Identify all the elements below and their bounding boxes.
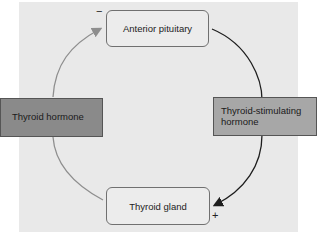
thyroid-gland-node: Thyroid gland [106,187,210,225]
stimulation-sign: + [212,209,218,221]
tsh-label: Thyroid-stimulating hormone [221,106,312,128]
thyroid-hormone-label: Thyroid hormone [12,112,84,123]
tsh-box: Thyroid-stimulating hormone [213,97,317,136]
anterior-pituitary-label: Anterior pituitary [123,23,192,34]
thyroid-hormone-box: Thyroid hormone [0,98,103,137]
thyroid-gland-label: Thyroid gland [129,201,187,212]
inhibition-sign: − [96,5,102,17]
anterior-pituitary-node: Anterior pituitary [106,10,209,47]
